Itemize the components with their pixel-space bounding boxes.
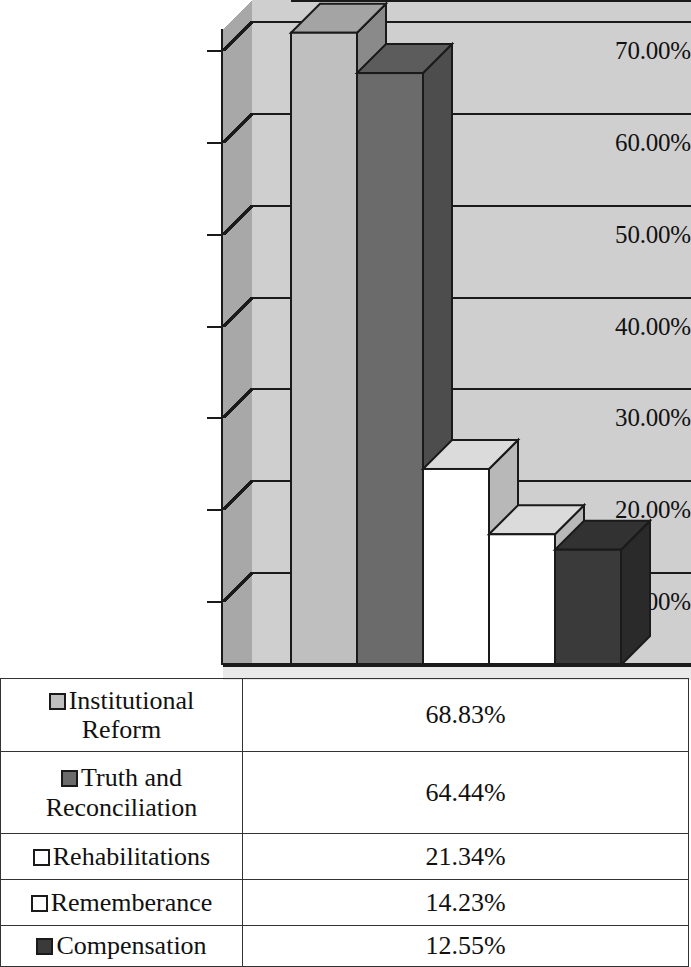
legend-swatch-truth-and-reconciliation <box>61 770 78 787</box>
bar-front-face-compensation <box>555 550 621 665</box>
legend-row: InstitutionalReform68.83% <box>1 679 689 752</box>
legend-swatch-rehabilitations <box>33 849 50 866</box>
legend-swatch-rememberance <box>31 895 48 912</box>
bar-chart: 70.00%60.00%50.00%40.00%30.00%20.00%10.0… <box>0 0 691 680</box>
legend-label-line2: Reform <box>82 715 161 744</box>
legend-name-cell-rememberance: Rememberance <box>1 880 243 926</box>
legend-value-cell-rehabilitations: 21.34% <box>243 834 689 880</box>
legend-row: Rememberance14.23% <box>1 880 689 926</box>
legend-label-line1: Truth and <box>81 763 182 792</box>
bar-compensation <box>0 0 691 680</box>
legend-label-line1: Institutional <box>69 686 195 715</box>
legend-value-cell-rememberance: 14.23% <box>243 880 689 926</box>
y-axis-line <box>221 29 223 665</box>
legend-name-cell-institutional-reform: InstitutionalReform <box>1 679 243 752</box>
legend-row: Compensation12.55% <box>1 926 689 967</box>
legend-value-cell-compensation: 12.55% <box>243 926 689 967</box>
legend-name-cell-rehabilitations: Rehabilitations <box>1 834 243 880</box>
legend-table: InstitutionalReform68.83%Truth andReconc… <box>0 678 689 967</box>
legend-value-cell-truth-and-reconciliation: 64.44% <box>243 752 689 834</box>
legend-name-cell-compensation: Compensation <box>1 926 243 967</box>
legend-label-line1: Compensation <box>56 931 206 960</box>
x-axis-line <box>221 663 691 665</box>
legend-row: Rehabilitations21.34% <box>1 834 689 880</box>
bar-3d-faces-compensation <box>0 0 691 680</box>
legend-swatch-institutional-reform <box>49 693 66 710</box>
legend-label-line1: Rehabilitations <box>53 842 210 871</box>
legend-name-cell-truth-and-reconciliation: Truth andReconciliation <box>1 752 243 834</box>
legend-label-line1: Rememberance <box>51 888 213 917</box>
legend-value-cell-institutional-reform: 68.83% <box>243 679 689 752</box>
legend-label-line2: Reconciliation <box>46 793 198 822</box>
legend-row: Truth andReconciliation64.44% <box>1 752 689 834</box>
legend-swatch-compensation <box>36 938 53 955</box>
